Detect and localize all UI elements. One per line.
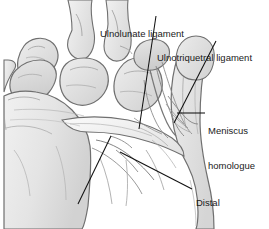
label-line: homologue (208, 160, 255, 172)
label-line: Ulnotriquetral ligament (157, 52, 252, 64)
capitate-bone (60, 58, 108, 105)
label-line: Meniscus (208, 125, 255, 137)
label-central-disc: Central disc (52, 207, 102, 229)
distal-radioulnar-ligament-structure (92, 136, 164, 206)
label-ulnotriquetral-ligament: Ulnotriquetral ligament (157, 29, 252, 87)
label-line: Distal (196, 197, 238, 209)
label-distal-radioulnar-ligament: Distal radioulnar ligament (196, 174, 238, 229)
leader-distal-radioulnar-ligament (120, 152, 192, 189)
anatomy-figure: Ulnolunate ligament Ulnotriquetral ligam… (0, 0, 269, 229)
